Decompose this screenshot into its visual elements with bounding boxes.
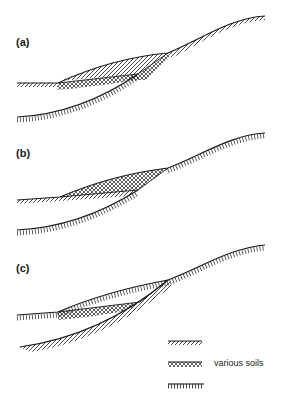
panel-c — [17, 245, 265, 352]
panel-label-b: (b) — [16, 147, 30, 159]
legend — [168, 341, 204, 386]
legend-crosshatch-swatch — [168, 362, 202, 367]
panel-a — [17, 16, 265, 120]
legend-vertical-ticks-swatch — [168, 384, 204, 386]
panel-b — [17, 133, 265, 233]
panel-label-a: (a) — [16, 36, 29, 48]
slope-cross-section-diagram — [0, 0, 284, 409]
legend-label-various-soils: various soils — [214, 358, 264, 368]
legend-diagonal-hatch-swatch — [168, 341, 202, 345]
panel-label-c: (c) — [16, 262, 29, 274]
